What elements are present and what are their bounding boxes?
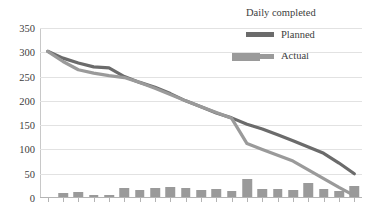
gridline bbox=[40, 101, 362, 102]
y-axis-tick-label: 250 bbox=[19, 71, 35, 82]
x-axis-tick-mark bbox=[201, 198, 202, 202]
bar-daily-completed bbox=[58, 193, 68, 197]
x-axis-tick-mark bbox=[170, 198, 171, 202]
bar-daily-completed bbox=[104, 195, 114, 197]
x-axis-tick-mark bbox=[354, 198, 355, 202]
y-axis-tick-label: 300 bbox=[19, 47, 35, 58]
bar-daily-completed bbox=[166, 187, 176, 197]
x-axis-tick-mark bbox=[324, 198, 325, 202]
bar-daily-completed bbox=[227, 191, 237, 197]
bar-daily-completed bbox=[242, 179, 252, 197]
bar-daily-completed bbox=[258, 189, 268, 197]
y-axis-tick-label: 50 bbox=[25, 168, 36, 179]
bar-daily-completed bbox=[150, 188, 160, 197]
x-axis-tick-mark bbox=[155, 198, 156, 202]
y-axis-tick-label: 100 bbox=[19, 144, 35, 155]
bar-daily-completed bbox=[74, 192, 84, 197]
y-axis-line bbox=[40, 28, 41, 198]
gridline bbox=[40, 77, 362, 78]
bar-daily-completed bbox=[334, 191, 344, 197]
x-axis-tick-mark bbox=[293, 198, 294, 202]
x-axis-tick-mark bbox=[109, 198, 110, 202]
bar-daily-completed bbox=[181, 188, 191, 197]
x-axis-tick-mark bbox=[247, 198, 248, 202]
x-axis-tick-mark bbox=[124, 198, 125, 202]
gridline bbox=[40, 125, 362, 126]
bar-daily-completed bbox=[196, 190, 206, 197]
burndown-chart: Daily completed Planned Actual 050100150… bbox=[0, 0, 378, 223]
bar-daily-completed bbox=[135, 190, 145, 197]
x-axis-tick-mark bbox=[308, 198, 309, 202]
x-axis-tick-mark bbox=[140, 198, 141, 202]
bar-daily-completed bbox=[350, 186, 360, 197]
x-axis-tick-mark bbox=[78, 198, 79, 202]
x-axis-tick-mark bbox=[48, 198, 49, 202]
x-axis-tick-mark bbox=[262, 198, 263, 202]
gridline bbox=[40, 174, 362, 175]
plot-area: 0501001502002503003500123456789101112131… bbox=[40, 28, 362, 198]
gridline bbox=[40, 149, 362, 150]
bar-daily-completed bbox=[89, 195, 99, 197]
x-axis-tick-mark bbox=[186, 198, 187, 202]
line-series-layer bbox=[40, 28, 362, 198]
bar-daily-completed bbox=[273, 189, 283, 197]
y-axis-tick-label: 0 bbox=[30, 193, 35, 204]
y-axis-tick-label: 150 bbox=[19, 120, 35, 131]
x-axis-tick-mark bbox=[63, 198, 64, 202]
legend-item-daily-completed: Daily completed bbox=[246, 8, 316, 19]
y-axis-tick-label: 200 bbox=[19, 95, 35, 106]
bar-daily-completed bbox=[319, 189, 329, 197]
bar-daily-completed bbox=[120, 188, 130, 197]
bar-daily-completed bbox=[304, 183, 314, 197]
gridline bbox=[40, 52, 362, 53]
x-axis-tick-mark bbox=[94, 198, 95, 202]
bar-daily-completed bbox=[288, 190, 298, 197]
legend-label-daily-completed: Daily completed bbox=[246, 8, 316, 19]
x-axis-tick-mark bbox=[216, 198, 217, 202]
gridline bbox=[40, 28, 362, 29]
x-axis-tick-mark bbox=[339, 198, 340, 202]
bar-daily-completed bbox=[212, 189, 222, 197]
x-axis-tick-mark bbox=[232, 198, 233, 202]
y-axis-tick-label: 350 bbox=[19, 23, 35, 34]
line-planned bbox=[48, 51, 355, 173]
x-axis-tick-mark bbox=[278, 198, 279, 202]
